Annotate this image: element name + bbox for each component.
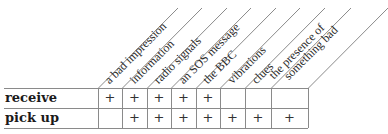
cell-receive-clues [245, 88, 271, 108]
cell-pick-up-the-bbc: + [196, 108, 220, 128]
cell-pick-up-the-presence-of-something-bad: + [271, 108, 308, 128]
cell-pick-up-radio-signals: + [147, 108, 171, 128]
cell-receive-the-presence-of-something-bad [271, 88, 308, 108]
cell-receive-the-bbc: + [196, 88, 220, 108]
cell-receive-vibrations [220, 88, 245, 108]
cell-pick-up-clues: + [245, 108, 271, 128]
cell-pick-up-information: + [122, 108, 147, 128]
cell-receive-an-sos-message: + [171, 88, 196, 108]
row-label-pick-up: pick up [5, 108, 59, 128]
cell-receive-a-bad-impression: + [98, 88, 122, 108]
cell-receive-radio-signals: + [147, 88, 171, 108]
cell-receive-information: + [122, 88, 147, 108]
cell-pick-up-a-bad-impression [98, 108, 122, 128]
cell-pick-up-an-sos-message: + [171, 108, 196, 128]
row-label-receive: receive [5, 88, 57, 108]
cell-pick-up-vibrations: + [220, 108, 245, 128]
